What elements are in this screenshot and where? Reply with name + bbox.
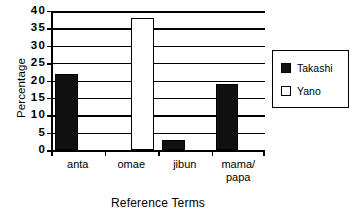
legend-swatch-icon — [281, 63, 291, 73]
x-tick-label-line: mama/ — [221, 158, 255, 170]
x-tick-mark — [105, 150, 107, 156]
legend-label: Yano — [297, 86, 321, 97]
gridline — [51, 81, 265, 82]
legend-item-yano: Yano — [281, 84, 321, 98]
bar-takashi-anta — [55, 74, 77, 151]
y-tick-label: 40 — [22, 5, 46, 17]
gridline — [51, 46, 265, 47]
y-tick-mark — [47, 11, 52, 12]
x-tick-mark — [263, 150, 265, 156]
bar-takashi-mamapapa — [216, 84, 238, 150]
x-axis-tick-labels: antaomaejibunmama/papa — [51, 158, 265, 194]
x-tick-label: omae — [105, 158, 159, 171]
x-tick-label-line: papa — [212, 171, 266, 184]
y-tick-mark — [47, 115, 52, 116]
y-axis-tick-labels: 0510152025303540 — [22, 0, 46, 219]
gridline — [51, 28, 265, 29]
y-tick-label: 30 — [22, 40, 46, 52]
y-tick-label: 35 — [22, 22, 46, 34]
x-tick-label-line: anta — [67, 158, 88, 170]
x-tick-mark — [51, 150, 53, 156]
legend-label: Takashi — [297, 63, 333, 74]
x-tick-label-line: omae — [117, 158, 145, 170]
bar-takashi-jibun — [162, 140, 184, 150]
x-tick-mark — [212, 150, 214, 156]
x-tick-label: jibun — [158, 158, 212, 171]
x-tick-label: anta — [51, 158, 105, 171]
x-tick-mark — [158, 150, 160, 156]
y-tick-label: 5 — [22, 127, 46, 139]
legend-swatch-icon — [281, 86, 291, 96]
gridline-top — [51, 11, 265, 13]
y-tick-mark — [47, 81, 52, 82]
bar-yano-omae — [131, 18, 153, 150]
y-tick-mark — [47, 98, 52, 99]
y-tick-label: 0 — [22, 144, 46, 156]
y-tick-label: 20 — [22, 75, 46, 87]
y-tick-label: 15 — [22, 92, 46, 104]
plot-area — [51, 11, 265, 152]
x-tick-label-line: jibun — [173, 158, 196, 170]
y-tick-mark — [47, 46, 52, 47]
x-axis-title: Reference Terms — [51, 196, 265, 210]
y-tick-mark — [47, 63, 52, 64]
chart-legend: TakashiYano — [272, 50, 349, 108]
y-tick-label: 10 — [22, 109, 46, 121]
bar-chart-figure: Percentage 0510152025303540 antaomaejibu… — [0, 0, 360, 219]
legend-item-takashi: Takashi — [281, 61, 333, 75]
gridline — [51, 63, 265, 64]
y-tick-mark — [47, 133, 52, 134]
y-tick-label: 25 — [22, 57, 46, 69]
y-tick-mark — [47, 28, 52, 29]
x-tick-label: mama/papa — [212, 158, 266, 184]
